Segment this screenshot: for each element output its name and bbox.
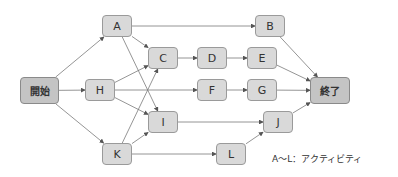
node-e: E: [247, 47, 277, 69]
edge-start-k: [56, 104, 104, 143]
node-d: D: [197, 47, 227, 69]
node-b: B: [255, 15, 285, 37]
activity-network-diagram: 開始AHKCIDFEGBLJ終了 A～L：アクティビティ: [0, 0, 398, 177]
edge-e-end: [277, 65, 310, 81]
node-f: F: [197, 79, 227, 101]
node-k: K: [102, 143, 132, 165]
legend-text: A～L：アクティビティ: [272, 152, 362, 165]
node-start: 開始: [20, 77, 59, 104]
edge-start-a: [56, 37, 104, 77]
node-h: H: [85, 79, 115, 101]
node-end: 終了: [310, 77, 350, 104]
node-a: A: [102, 15, 132, 37]
edge-k-i: [132, 132, 148, 143]
edge-a-c: [132, 36, 148, 47]
node-l: L: [216, 143, 246, 165]
edge-b-end: [280, 37, 317, 77]
node-g: G: [247, 79, 277, 101]
edge-j-end: [293, 103, 310, 113]
node-j: J: [263, 111, 293, 133]
node-i: I: [148, 111, 178, 133]
edge-l-j: [246, 132, 263, 144]
node-c: C: [148, 47, 178, 69]
